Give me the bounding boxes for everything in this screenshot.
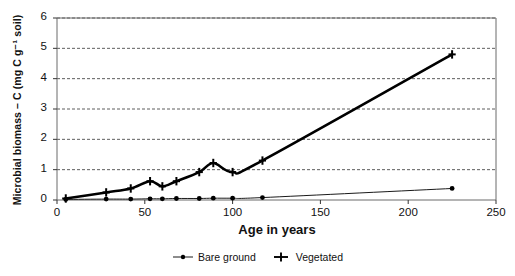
x-tick-label: 150 xyxy=(300,206,340,218)
series-line xyxy=(66,54,452,198)
y-tick-label: 5 xyxy=(21,40,47,52)
data-point-dot xyxy=(160,196,165,201)
series-vegetated xyxy=(62,50,456,202)
data-point-dot xyxy=(104,197,109,202)
x-tick-label: 50 xyxy=(125,206,165,218)
chart-figure: Microbial biomass – C (mg C g⁻¹ soil) Ag… xyxy=(0,0,515,276)
x-tick-label: 100 xyxy=(213,206,253,218)
data-point-dot xyxy=(128,197,133,202)
x-tick-label: 0 xyxy=(37,206,77,218)
legend-item-vegetated: Vegetated xyxy=(270,251,343,263)
data-point-dot xyxy=(260,195,265,200)
legend-label-vegetated: Vegetated xyxy=(296,251,343,263)
y-tick-label: 3 xyxy=(21,101,47,113)
y-tick-label: 1 xyxy=(21,162,47,174)
y-tick-label: 4 xyxy=(21,71,47,83)
x-tick-label: 250 xyxy=(476,206,515,218)
series-bare-ground xyxy=(63,186,454,202)
gridlines xyxy=(57,18,496,170)
legend-label-bare-ground: Bare ground xyxy=(198,251,256,263)
data-point-dot xyxy=(197,196,202,201)
x-tick-label: 200 xyxy=(388,206,428,218)
data-series-layer xyxy=(62,50,456,202)
data-point-dot xyxy=(211,196,216,201)
y-tick-label: 6 xyxy=(21,10,47,22)
dot-marker-icon xyxy=(172,251,194,263)
axis-ticks xyxy=(53,18,496,204)
data-point-dot xyxy=(148,196,153,201)
plus-marker-icon xyxy=(270,251,292,263)
legend-item-bare-ground: Bare ground xyxy=(172,251,256,263)
data-point-dot xyxy=(450,186,455,191)
x-axis-label: Age in years xyxy=(57,222,497,237)
data-point-dot xyxy=(174,196,179,201)
y-tick-label: 2 xyxy=(21,131,47,143)
data-point-dot xyxy=(230,196,235,201)
y-tick-label: 0 xyxy=(21,192,47,204)
chart-legend: Bare ground Vegetated xyxy=(0,251,515,263)
